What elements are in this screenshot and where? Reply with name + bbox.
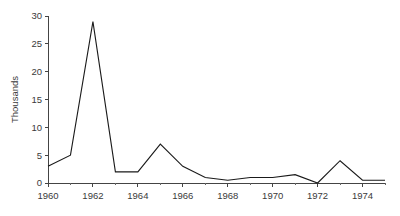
x-tick-label: 1960 — [37, 190, 58, 201]
x-tick-labels: 19601962196419661968197019721974 — [37, 190, 373, 201]
x-tick-label: 1968 — [217, 190, 238, 201]
x-tick-label: 1962 — [82, 190, 103, 201]
x-tick-label: 1964 — [127, 190, 148, 201]
y-tick-label: 10 — [31, 122, 42, 133]
x-tick-label: 1974 — [352, 190, 373, 201]
y-axis-title-group: Thousands — [9, 76, 20, 123]
y-axis-group: 051015202530 — [31, 10, 48, 188]
y-tick-label: 15 — [31, 94, 42, 105]
x-tick-label: 1966 — [172, 190, 193, 201]
series-group — [48, 22, 385, 183]
chart-canvas: 051015202530 196019621964196619681970197… — [0, 0, 400, 216]
y-tick-label: 30 — [31, 10, 42, 21]
x-tick-label: 1972 — [307, 190, 328, 201]
y-tick-label: 0 — [37, 177, 42, 188]
x-tick-label: 1970 — [262, 190, 283, 201]
line-chart: 051015202530 196019621964196619681970197… — [0, 0, 400, 216]
y-tick-label: 20 — [31, 66, 42, 77]
y-tick-labels: 051015202530 — [31, 10, 42, 188]
series-line — [48, 22, 385, 183]
x-axis-group: 19601962196419661968197019721974 — [37, 183, 385, 201]
y-axis-title: Thousands — [9, 76, 20, 123]
y-tick-label: 25 — [31, 38, 42, 49]
y-tick-label: 5 — [37, 150, 42, 161]
